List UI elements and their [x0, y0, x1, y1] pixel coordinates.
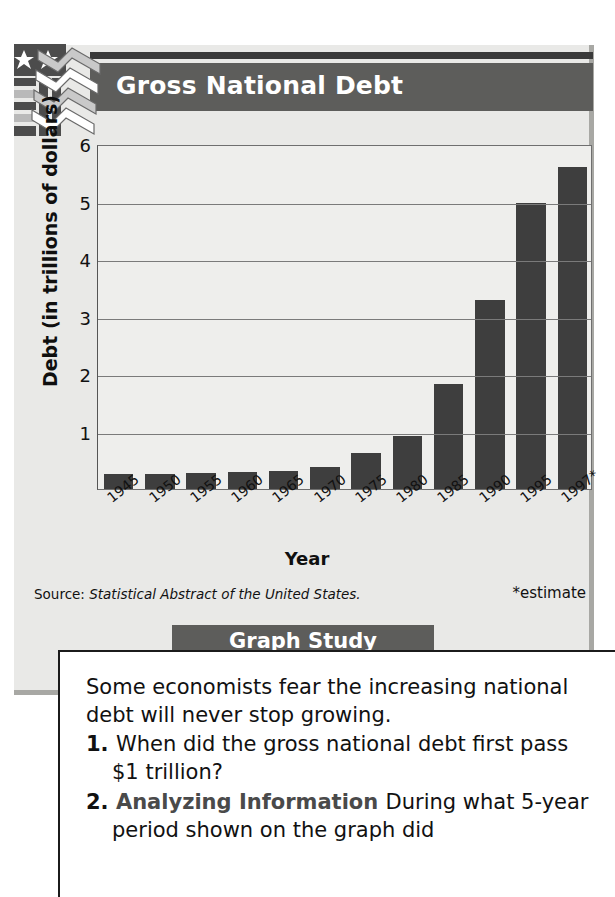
source-prefix: Source:: [34, 586, 89, 602]
y-axis-label: Debt (in trillions of dollars): [39, 91, 61, 391]
bar: [558, 167, 588, 489]
y-axis-ticks: 123456: [65, 145, 91, 490]
question-number: 1.: [86, 732, 116, 756]
y-tick-label: 6: [69, 135, 91, 156]
gridline: [98, 261, 591, 262]
bar: [475, 300, 505, 489]
question-text: When did the gross national debt first p…: [112, 732, 568, 784]
graph-page: Gross National Debt Debt (in trillions o…: [0, 0, 615, 897]
source-title: Statistical Abstract of the United State…: [89, 586, 360, 602]
bar-series: [98, 146, 591, 489]
header-top-rule: [90, 52, 593, 59]
chart: Debt (in trillions of dollars) 123456 19…: [22, 118, 592, 618]
y-tick-label: 4: [69, 250, 91, 271]
graph-study-questions: 1. When did the gross national debt firs…: [86, 731, 589, 844]
gridline: [98, 204, 591, 205]
graph-study-lead: Some economists fear the increasing nati…: [86, 674, 589, 729]
graph-study-box: Some economists fear the increasing nati…: [58, 650, 615, 897]
y-tick-label: 2: [69, 365, 91, 386]
gridline: [98, 434, 591, 435]
gridline: [98, 319, 591, 320]
gridline: [98, 376, 591, 377]
question-number: 2.: [86, 790, 116, 814]
source-note: Source: Statistical Abstract of the Unit…: [34, 586, 361, 602]
graph-study-question: 2. Analyzing Information During what 5-y…: [86, 789, 589, 844]
x-axis-label: Year: [22, 548, 592, 569]
bar: [516, 203, 546, 489]
graph-study-question: 1. When did the gross national debt firs…: [86, 731, 589, 786]
y-tick-label: 5: [69, 192, 91, 213]
x-axis-ticks: 1945195019551960196519701975198019851990…: [97, 493, 592, 553]
question-skill-label: Analyzing Information: [116, 790, 386, 814]
y-tick-label: 3: [69, 307, 91, 328]
y-tick-label: 1: [69, 422, 91, 443]
estimate-footnote: *estimate: [512, 584, 586, 602]
page-title: Gross National Debt: [116, 71, 403, 100]
plot-area: [97, 145, 592, 490]
